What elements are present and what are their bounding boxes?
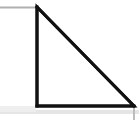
figure-canvas: Right Triangle A right triangle drawn in… [0,0,139,120]
bottom-left-scan-smudge-artifact [0,106,36,112]
triangle-hypotenuse [37,7,134,106]
triangle-edge-group [37,7,134,106]
triangle-figure-svg [0,0,139,120]
scan-artifact-group [0,8,139,121]
